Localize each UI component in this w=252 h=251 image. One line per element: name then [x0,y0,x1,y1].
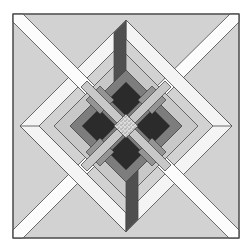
quilt-block-figure [0,0,252,251]
quilt-block-svg [0,0,252,251]
